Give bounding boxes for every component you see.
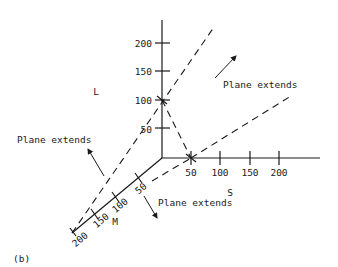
l-tick-150: 150: [135, 66, 152, 77]
arrow-upper-right-icon: [215, 56, 236, 78]
plane-trace-ls: [162, 100, 191, 158]
s-tick-150: 150: [241, 167, 258, 178]
annotation-left: Plane extends: [17, 134, 91, 145]
l-tick-100: 100: [135, 95, 152, 106]
panel-label: (b): [13, 253, 30, 264]
plane-diagram: 200 150 100 50 50 100 150 200 50 100 150…: [0, 0, 338, 267]
s-tick-50: 50: [185, 167, 197, 178]
l-tick-200: 200: [135, 38, 152, 49]
annotation-upper-right: Plane extends: [223, 79, 297, 90]
s-tick-100: 100: [211, 167, 228, 178]
arrow-left-icon: [88, 149, 104, 176]
s-tick-200: 200: [270, 167, 287, 178]
m-axis-label: M: [112, 216, 118, 227]
annotation-lower: Plane extends: [158, 197, 232, 208]
l-axis-label: L: [93, 86, 99, 97]
arrow-lower-icon: [144, 196, 157, 218]
m-tick-50: 50: [133, 180, 149, 196]
l-tick-50: 50: [141, 124, 153, 135]
plane-trace-s-extended: [191, 96, 291, 158]
